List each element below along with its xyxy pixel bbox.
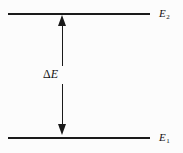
energy-level-line-lower: [8, 137, 150, 139]
energy-level-label-upper: E2: [159, 8, 169, 19]
energy-level-label-upper-subscript: 2: [166, 13, 170, 21]
energy-level-diagram: E2 ΔE E1: [0, 0, 183, 153]
transition-arrow-shaft-lower: [62, 84, 63, 124]
delta-energy-variable: E: [51, 67, 58, 81]
delta-energy-label: ΔE: [43, 68, 58, 80]
delta-symbol: Δ: [43, 67, 51, 81]
energy-level-line-upper: [8, 13, 150, 15]
energy-level-label-upper-base: E: [159, 7, 166, 19]
arrow-head-down-icon: [58, 124, 66, 135]
energy-level-label-lower-base: E: [159, 131, 166, 143]
energy-level-label-lower-subscript: 1: [166, 137, 170, 145]
transition-arrow-shaft-upper: [62, 25, 63, 66]
energy-level-label-lower: E1: [159, 132, 169, 143]
